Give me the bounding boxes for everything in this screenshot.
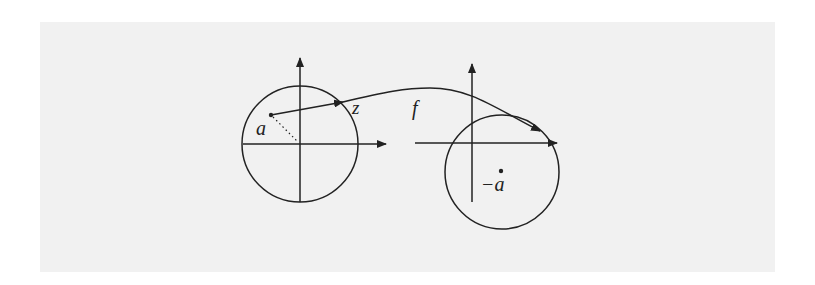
vector-a-to-z <box>271 102 343 115</box>
dotted-segment-a-origin <box>273 117 298 142</box>
complex-map-diagram <box>0 0 815 285</box>
label-neg-a: −a <box>481 174 505 194</box>
map-f-curve <box>343 88 540 131</box>
label-z: z <box>352 98 359 117</box>
label-f: f <box>412 98 418 118</box>
label-a: a <box>256 118 266 138</box>
